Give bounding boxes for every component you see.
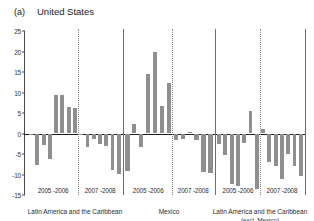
bar (299, 134, 303, 176)
y-tick-mark (22, 31, 25, 32)
group-label: Latin America and the Caribbean (28, 208, 123, 216)
period-label: 2005 -2006 (223, 187, 254, 194)
y-tick-label: 20 (14, 48, 21, 55)
page-title: United States (37, 6, 94, 17)
bar (35, 134, 39, 165)
bar (194, 134, 198, 141)
period-label: 2005 -2006 (133, 187, 164, 194)
bar (286, 134, 290, 155)
bar (293, 134, 297, 166)
y-tick-label: -5 (16, 151, 21, 158)
bar (236, 134, 240, 187)
bar (230, 134, 234, 184)
zero-baseline (24, 134, 306, 135)
bar (274, 134, 278, 166)
bar (29, 134, 33, 136)
bar (139, 134, 143, 148)
bar (42, 134, 46, 145)
group-label: Mexico (159, 208, 180, 216)
bar (167, 83, 171, 133)
bar (153, 52, 157, 133)
period-label: 2005 -2006 (38, 187, 69, 194)
period-separator (260, 29, 261, 195)
bar (280, 134, 284, 179)
period-label: 2007 -2008 (267, 187, 298, 194)
group-separator (215, 29, 216, 195)
y-tick-label: -15 (12, 192, 21, 199)
bar (60, 95, 64, 134)
bar (73, 108, 77, 134)
y-tick-mark (22, 51, 25, 52)
chart-figure: (a) United States 2520151050-5-10-15 200… (0, 0, 314, 221)
y-tick-label: -10 (12, 171, 21, 178)
group-label-main: Latin America and the Caribbean (213, 208, 308, 215)
y-tick-label: 15 (14, 69, 21, 76)
group-label-main: Mexico (159, 208, 180, 215)
chart-title-row: (a) United States (14, 6, 94, 17)
y-tick-mark (22, 154, 25, 155)
bar (223, 134, 227, 156)
bar (67, 107, 71, 133)
group-label-sub: (excl. Mexico) (213, 216, 308, 221)
y-tick-label: 25 (14, 28, 21, 35)
bar (111, 134, 115, 170)
bar (201, 134, 205, 172)
group-label-main: Latin America and the Caribbean (28, 208, 123, 215)
group-label: Latin America and the Caribbean(excl. Me… (213, 208, 308, 221)
bar (125, 134, 129, 172)
bar (208, 134, 212, 173)
bar (174, 134, 178, 140)
bar (79, 134, 83, 135)
bar (146, 74, 150, 133)
bar (86, 134, 90, 147)
group-separator (123, 29, 124, 195)
y-tick-label: 0 (18, 130, 21, 137)
bar (98, 134, 102, 145)
period-label: 2007 -2008 (85, 187, 116, 194)
bar (132, 124, 136, 133)
y-tick-label: 10 (14, 89, 21, 96)
y-tick-mark (22, 174, 25, 175)
bar (267, 134, 271, 163)
bar (48, 134, 52, 159)
bar (117, 134, 121, 174)
bar (92, 134, 96, 139)
bar (249, 111, 253, 134)
y-tick-mark (22, 195, 25, 196)
bar (188, 132, 192, 133)
bar (181, 134, 185, 140)
bar (261, 129, 265, 134)
period-separator (78, 29, 79, 195)
bar (104, 134, 108, 146)
y-tick-label: 5 (18, 110, 21, 117)
group-separator (305, 29, 306, 195)
panel-letter: (a) (14, 7, 25, 17)
y-tick-mark (22, 113, 25, 114)
bar (217, 134, 221, 145)
bar (54, 95, 58, 134)
plot-area: 2520151050-5-10-15 (24, 31, 306, 195)
period-label: 2007 -2008 (178, 187, 209, 194)
bar (255, 134, 259, 189)
y-tick-mark (22, 92, 25, 93)
y-tick-mark (22, 72, 25, 73)
bar (242, 134, 246, 143)
bar (160, 106, 164, 134)
period-separator (172, 29, 173, 195)
